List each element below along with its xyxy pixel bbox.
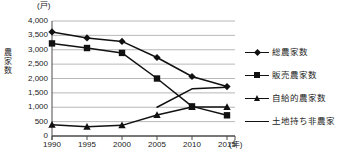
legend-item-2[interactable]: 自給的農家数 (245, 91, 326, 105)
x-tick-label-2010: 2010 (183, 141, 201, 149)
legend-label: 自給的農家数 (272, 93, 326, 103)
legend-marker-glyph (254, 72, 260, 78)
legend-marker-glyph (254, 95, 260, 101)
x-tick-label-1995: 1995 (78, 141, 96, 149)
legend-line (245, 121, 269, 122)
marker-square-1-2 (119, 50, 125, 56)
marker-square-1-0 (49, 40, 55, 46)
marker-diamond-0-3 (153, 54, 160, 61)
series-line-2 (52, 107, 227, 127)
legend-marker-triangle-icon (245, 92, 269, 104)
x-tick-label-1990: 1990 (43, 141, 61, 149)
legend-item-1[interactable]: 販売農家数 (245, 68, 317, 82)
marker-diamond-0-4 (188, 73, 195, 80)
legend-marker-diamond-icon (245, 46, 269, 58)
legend-item-3[interactable]: 土地持ち非農家 (245, 114, 335, 128)
legend-label: 土地持ち非農家 (272, 116, 335, 126)
marker-diamond-0-2 (118, 38, 125, 45)
marker-diamond-0-0 (48, 28, 55, 35)
x-axis-unit-label: (年) (229, 141, 242, 149)
marker-square-1-5 (224, 112, 230, 118)
legend-label: 販売農家数 (272, 70, 317, 80)
legend-marker-glyph (253, 48, 260, 55)
marker-square-1-1 (84, 45, 90, 51)
x-tick-label-2005: 2005 (148, 141, 166, 149)
x-tick-label-2000: 2000 (113, 141, 131, 149)
legend-marker-none-icon (245, 115, 269, 127)
farm-households-line-chart: (戸) 農家数 4,0003,5003,0002,5002,0001,5001,… (0, 0, 343, 160)
legend-marker-square-icon (245, 69, 269, 81)
legend-item-0[interactable]: 総農家数 (245, 45, 308, 59)
legend-label: 総農家数 (272, 47, 308, 57)
marker-square-1-3 (154, 75, 160, 81)
